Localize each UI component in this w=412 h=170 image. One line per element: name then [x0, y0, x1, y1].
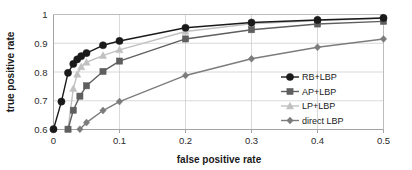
- data-point-marker: [100, 68, 106, 74]
- legend-item-direct-lbp[interactable]: direct LBP: [281, 116, 344, 126]
- data-point-marker: [314, 16, 321, 23]
- legend-label: direct LBP: [302, 116, 344, 126]
- data-point-marker: [380, 35, 386, 42]
- data-point-marker: [50, 126, 57, 133]
- y-axis-title: true positive rate: [5, 31, 16, 112]
- data-point-marker: [380, 14, 387, 21]
- legend-label: AP+LBP: [302, 87, 336, 97]
- legend-item-lp-lbp[interactable]: LP+LBP: [281, 101, 335, 111]
- y-tick-label: 0.6: [34, 124, 47, 135]
- data-point-marker: [70, 85, 77, 92]
- x-tick-label: 0: [51, 135, 56, 146]
- data-point-marker: [116, 58, 122, 64]
- legend-item-rb-lbp[interactable]: RB+LBP: [281, 72, 337, 82]
- data-point-marker: [83, 49, 90, 56]
- legend-label: LP+LBP: [302, 101, 335, 111]
- x-tick-label: 0.2: [179, 135, 192, 146]
- x-tick-label: 0.3: [245, 135, 258, 146]
- x-axis-title: false positive rate: [177, 154, 262, 165]
- data-point-marker: [287, 117, 293, 124]
- data-point-marker: [64, 69, 71, 76]
- data-point-marker: [70, 107, 76, 113]
- y-tick-label: 1: [42, 9, 47, 20]
- x-tick-label: 0.4: [311, 135, 324, 146]
- x-tick-label: 0.5: [377, 135, 390, 146]
- roc-chart-canvas: 00.10.20.30.40.5 0.60.70.80.91 false pos…: [0, 0, 412, 170]
- data-point-marker: [99, 42, 106, 49]
- y-tick-label: 0.7: [34, 95, 47, 106]
- data-point-marker: [314, 44, 320, 51]
- data-point-marker: [83, 83, 89, 89]
- data-point-marker: [77, 93, 83, 99]
- data-point-marker: [248, 55, 254, 62]
- legend-label: RB+LBP: [302, 72, 337, 82]
- data-point-marker: [286, 73, 293, 80]
- data-point-marker: [248, 19, 255, 26]
- legend-item-ap-lbp[interactable]: AP+LBP: [281, 87, 336, 97]
- data-point-marker: [58, 98, 65, 105]
- x-axis-tick-labels: 00.10.20.30.40.5: [51, 135, 390, 146]
- data-point-marker: [182, 72, 188, 79]
- data-point-marker: [182, 36, 188, 42]
- data-point-marker: [116, 37, 123, 44]
- chart-legend: RB+LBPAP+LBPLP+LBPdirect LBP: [281, 72, 344, 126]
- data-point-marker: [65, 126, 71, 132]
- y-axis-tick-labels: 0.60.70.80.91: [34, 9, 47, 135]
- series-lp-lbp: [64, 14, 387, 132]
- x-tick-label: 0.1: [113, 135, 126, 146]
- data-point-marker: [248, 27, 254, 33]
- y-tick-label: 0.9: [34, 38, 47, 49]
- y-tick-label: 0.8: [34, 67, 47, 78]
- roc-chart-figure: 00.10.20.30.40.5 0.60.70.80.91 false pos…: [0, 0, 412, 170]
- data-point-marker: [116, 98, 122, 105]
- data-point-marker: [287, 88, 293, 94]
- data-point-marker: [74, 71, 81, 78]
- data-point-marker: [182, 24, 189, 31]
